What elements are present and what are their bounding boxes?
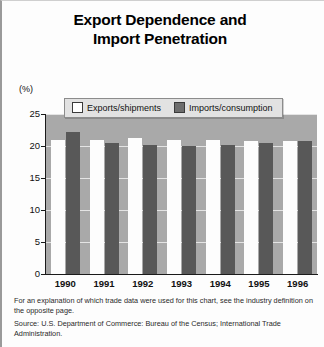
y-axis-tick-mark	[41, 210, 46, 211]
bar-imports	[298, 141, 312, 274]
y-axis-tick-mark	[41, 274, 46, 275]
legend-item-exports: Exports/shipments	[72, 102, 161, 113]
bar-imports	[105, 143, 119, 274]
legend-swatch-exports-icon	[72, 102, 83, 113]
y-axis-tick-label: 15	[10, 172, 40, 183]
legend-item-imports: Imports/consumption	[174, 102, 273, 113]
page-title: Export Dependence and Import Penetration	[2, 10, 318, 48]
y-axis-tick-label: 5	[10, 236, 40, 247]
bar-imports	[182, 146, 196, 274]
chart-legend: Exports/shipments Imports/consumption	[64, 98, 283, 118]
y-axis-tick-label: 20	[10, 140, 40, 151]
y-axis-tick-label: 25	[10, 108, 40, 119]
legend-label-exports: Exports/shipments	[87, 103, 161, 113]
bar-exports	[206, 140, 220, 274]
bar-exports	[128, 138, 142, 274]
chart-source-note: Source: U.S. Department of Commerce: Bur…	[14, 319, 314, 338]
title-line-2: Import Penetration	[2, 29, 318, 48]
y-axis-line	[45, 114, 46, 275]
y-axis-tick-mark	[41, 178, 46, 179]
chart-explanation-note: For an explanation of which trade data w…	[14, 296, 314, 315]
bar-imports	[259, 143, 273, 274]
x-axis-tick-label: 1996	[273, 278, 323, 289]
legend-swatch-imports-icon	[174, 102, 185, 113]
y-axis-tick-label: 10	[10, 204, 40, 215]
bar-exports	[167, 140, 181, 274]
title-line-1: Export Dependence and	[73, 11, 246, 28]
plot-area	[46, 114, 317, 274]
bar-exports	[90, 140, 104, 274]
bar-imports	[143, 145, 157, 274]
bar-imports	[221, 145, 235, 274]
bar-exports	[283, 141, 297, 274]
bar-imports	[66, 132, 80, 274]
legend-label-imports: Imports/consumption	[189, 103, 273, 113]
bar-exports	[244, 141, 258, 274]
y-axis-tick-mark	[41, 114, 46, 115]
chart-page: Export Dependence and Import Penetration…	[0, 0, 324, 347]
y-axis-tick-mark	[41, 242, 46, 243]
y-axis-tick-mark	[41, 146, 46, 147]
y-axis-tick-label: 0	[10, 268, 40, 279]
x-axis-line	[45, 274, 318, 275]
y-axis-unit-label: (%)	[19, 84, 33, 94]
bar-exports	[51, 140, 65, 274]
